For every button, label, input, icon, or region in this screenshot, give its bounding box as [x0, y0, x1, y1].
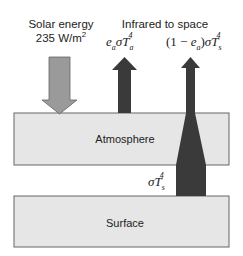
solar-energy-label: Solar energy 235 W/m2 — [22, 18, 100, 44]
surface-transmitted-label: (1 − ea)σTs4 — [166, 34, 226, 52]
atmosphere-emission-label: eaσTa4 — [106, 34, 137, 52]
atmosphere-label: Atmosphere — [95, 133, 155, 145]
atmosphere-ir-arrow-icon — [112, 57, 137, 113]
surface-emission-label: σTs4 — [148, 174, 169, 192]
infrared-to-space-label: Infrared to space — [120, 18, 210, 30]
solar-down-arrow-icon — [42, 57, 77, 114]
surface-label: Surface — [95, 217, 155, 229]
